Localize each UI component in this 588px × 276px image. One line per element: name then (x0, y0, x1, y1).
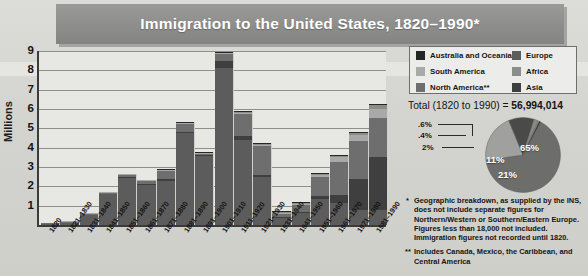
pie-leader-line (438, 135, 466, 136)
y-tick-label: 6 (28, 103, 34, 115)
y-tick-label: 4 (28, 142, 34, 154)
right-panel: Australia and OceaniaEuropeSouth America… (398, 44, 588, 276)
legend-label: North America** (430, 83, 490, 92)
bar-segment (311, 177, 329, 196)
legend-swatch (512, 83, 521, 92)
y-axis-label: Millions (2, 101, 14, 142)
y-tick-label: 9 (28, 45, 34, 57)
pie-callout-label: .6% (418, 120, 432, 129)
footnote-single-text: Geographic breakdown, as supplied by the… (414, 196, 581, 242)
legend-item: Africa (512, 63, 584, 79)
total-value: 56,994,014 (511, 100, 563, 111)
legend-item: North America** (416, 79, 512, 95)
chart-title-bar: Immigration to the United States, 1820–1… (56, 4, 564, 44)
y-tick-label: 8 (28, 64, 34, 76)
page-background: Immigration to the United States, 1820–1… (0, 0, 588, 276)
bar-column (215, 52, 234, 225)
pie-slice-label: 21% (498, 169, 517, 180)
bar-segment (349, 141, 367, 179)
legend-swatch (416, 83, 425, 92)
gridline (39, 109, 386, 110)
y-tick-label: 2 (28, 180, 34, 192)
legend-item: Australia and Oceania (416, 47, 512, 63)
y-tick-label: 7 (28, 84, 34, 96)
legend-label: Asia (526, 83, 542, 92)
bar-segment (369, 118, 387, 158)
pie-slice-label: 65% (520, 142, 539, 153)
pie-leader-line (438, 124, 472, 125)
bar-segment (330, 162, 348, 195)
bar-segment (369, 109, 387, 118)
pie-callout-label: .4% (418, 131, 432, 140)
legend-swatch (512, 51, 521, 60)
legend-swatch (416, 51, 425, 60)
legend-swatch (416, 67, 425, 76)
y-tick-label: 5 (28, 122, 34, 134)
legend-label: South America (430, 67, 485, 76)
legend-item: South America (416, 63, 512, 79)
bar-segment (176, 124, 194, 132)
bar-segment (253, 146, 271, 175)
bar-segment (215, 54, 233, 61)
footnote-double-mark: ** (405, 247, 411, 256)
legend-label: Europe (526, 51, 553, 60)
pie-slice-label: 11% (486, 154, 505, 165)
gridline (39, 148, 386, 149)
y-tick-label: 3 (28, 161, 34, 173)
pie-leader-line (442, 147, 474, 148)
y-axis-ticks: 987654321 (18, 46, 34, 228)
legend-item: Europe (512, 47, 584, 63)
total-label: Total (1820 to 1990) = (408, 100, 511, 111)
pie-chart: 65%21%11%.6%.4%2% (398, 114, 588, 196)
x-axis-ticks: 18201821–18301831–18401841–18501851–1860… (37, 229, 388, 276)
bar-segment (234, 114, 252, 136)
bar-chart: Millions 987654321 18201821–18301831–184… (0, 46, 398, 276)
footnotes: * Geographic breakdown, as supplied by t… (406, 196, 588, 271)
gridline (39, 51, 386, 52)
legend-label: Australia and Oceania (430, 51, 512, 60)
gridline (39, 90, 386, 91)
footnote-single: * Geographic breakdown, as supplied by t… (406, 196, 588, 242)
footnote-double: ** Includes Canada, Mexico, the Caribbea… (406, 247, 588, 266)
gridline (39, 70, 386, 71)
footnote-single-mark: * (406, 196, 409, 205)
gridline (39, 128, 386, 129)
total-line: Total (1820 to 1990) = 56,994,014 (408, 100, 588, 111)
pie-leader-bracket (472, 124, 473, 136)
footnote-double-text: Includes Canada, Mexico, the Caribbean, … (414, 247, 573, 265)
bar-segment (157, 171, 175, 179)
pie-callout-label: 2% (422, 143, 434, 152)
legend-swatch (512, 67, 521, 76)
legend-label: Africa (526, 67, 548, 76)
page-title: Immigration to the United States, 1820–1… (140, 15, 480, 33)
legend: Australia and OceaniaEuropeSouth America… (409, 46, 577, 94)
y-tick-label: 1 (28, 200, 34, 212)
legend-item: Asia (512, 79, 584, 95)
